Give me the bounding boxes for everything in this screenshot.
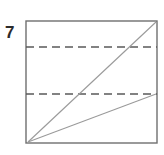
main-diagonal: [28, 22, 156, 142]
figure-container: 7: [0, 0, 164, 155]
geometry-diagram: [0, 0, 164, 155]
shallow-diagonal: [28, 94, 156, 142]
